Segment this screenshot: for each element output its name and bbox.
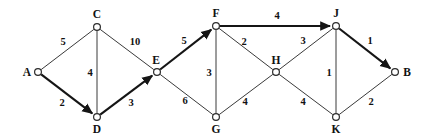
node-label-d: D bbox=[93, 123, 101, 135]
node-label-a: A bbox=[23, 66, 32, 78]
node-label-k: K bbox=[332, 123, 341, 135]
edge-weight-a-d: 2 bbox=[59, 97, 64, 108]
edge-a-d bbox=[41, 74, 92, 113]
network-diagram-svg: ACDEFGHJKB 52410356324434112 bbox=[0, 0, 426, 140]
node-a[interactable]: A bbox=[23, 66, 42, 78]
edge-k-b bbox=[339, 74, 392, 114]
node-label-j: J bbox=[333, 7, 339, 19]
node-label-f: F bbox=[212, 7, 219, 19]
edge-weight-a-c: 5 bbox=[60, 36, 65, 47]
edge-h-k bbox=[279, 74, 333, 114]
node-label-h: H bbox=[272, 54, 281, 66]
node-circle-j[interactable] bbox=[333, 23, 340, 30]
node-g[interactable]: G bbox=[212, 114, 221, 135]
node-d[interactable]: D bbox=[93, 114, 101, 135]
edge-a-c bbox=[41, 29, 94, 69]
node-circle-h[interactable] bbox=[273, 69, 280, 76]
node-circle-g[interactable] bbox=[213, 114, 220, 121]
edge-weight-j-k: 1 bbox=[326, 67, 331, 78]
edge-f-h bbox=[219, 28, 273, 69]
edge-g-h bbox=[219, 74, 273, 114]
edge-weight-h-k: 4 bbox=[300, 96, 306, 107]
node-label-g: G bbox=[212, 123, 221, 135]
node-circle-k[interactable] bbox=[333, 114, 340, 121]
nodes-layer: ACDEFGHJKB bbox=[23, 7, 411, 135]
edge-weight-f-j: 4 bbox=[274, 10, 280, 21]
node-b[interactable]: B bbox=[392, 66, 412, 78]
edge-weight-j-b: 1 bbox=[367, 35, 372, 46]
node-circle-b[interactable] bbox=[392, 69, 399, 76]
edge-weight-h-j: 3 bbox=[300, 35, 305, 46]
edge-weight-c-d: 4 bbox=[87, 67, 93, 78]
node-h[interactable]: H bbox=[272, 54, 281, 75]
node-circle-d[interactable] bbox=[94, 114, 101, 121]
edge-weight-f-h: 2 bbox=[241, 36, 246, 47]
edge-weight-f-g: 3 bbox=[206, 67, 211, 78]
node-j[interactable]: J bbox=[333, 7, 340, 29]
edge-h-j bbox=[279, 28, 333, 69]
edge-weight-e-g: 6 bbox=[182, 95, 187, 106]
node-circle-c[interactable] bbox=[94, 24, 101, 31]
node-circle-e[interactable] bbox=[154, 69, 161, 76]
edge-j-b bbox=[339, 28, 390, 68]
edge-weight-g-h: 4 bbox=[242, 96, 248, 107]
node-e[interactable]: E bbox=[152, 54, 160, 75]
edge-weight-k-b: 2 bbox=[368, 96, 373, 107]
edges-layer bbox=[41, 26, 392, 115]
node-f[interactable]: F bbox=[212, 7, 219, 29]
edge-d-e bbox=[100, 76, 152, 115]
edge-weight-e-f: 5 bbox=[181, 35, 186, 46]
node-c[interactable]: C bbox=[93, 8, 101, 30]
node-label-b: B bbox=[403, 66, 411, 78]
node-label-c: C bbox=[93, 8, 101, 20]
node-circle-a[interactable] bbox=[35, 69, 42, 76]
node-k[interactable]: K bbox=[332, 114, 341, 135]
edge-c-e bbox=[100, 29, 154, 69]
edge-weight-d-e: 3 bbox=[128, 97, 133, 108]
node-label-e: E bbox=[152, 54, 160, 66]
network-diagram-canvas: ACDEFGHJKB 52410356324434112 bbox=[0, 0, 426, 140]
node-circle-f[interactable] bbox=[213, 23, 220, 30]
edge-weight-c-e: 10 bbox=[130, 36, 141, 47]
